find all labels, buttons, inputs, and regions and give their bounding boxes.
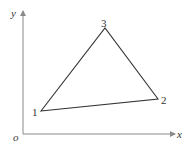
vertex-3-label: 3: [101, 17, 107, 29]
origin-label: o: [13, 131, 19, 143]
y-axis-label: y: [10, 7, 16, 19]
vertex-1-label: 1: [32, 106, 38, 118]
triangle: [41, 28, 158, 111]
vertex-2-label: 2: [161, 94, 167, 106]
x-axis-label: x: [176, 128, 182, 140]
triangle-element-diagram: y o x 1 2 3: [0, 0, 184, 149]
